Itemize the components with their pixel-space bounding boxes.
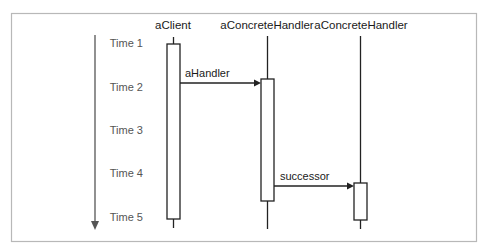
diagram-frame <box>12 14 477 242</box>
time-label-3: Time 3 <box>110 124 143 136</box>
time-label-5: Time 5 <box>110 211 143 223</box>
activation-bar <box>354 183 367 220</box>
message-label: aHandler <box>185 67 230 79</box>
message-label: successor <box>280 170 330 182</box>
activation-bar <box>167 44 180 219</box>
time-label-1: Time 1 <box>110 37 143 49</box>
participant-handler-2-label: aConcreteHandler <box>314 19 408 31</box>
time-label-2: Time 2 <box>110 81 143 93</box>
sequence-diagram: Time 1 Time 2 Time 3 Time 4 Time 5 aClie… <box>0 0 487 251</box>
activation-bar <box>261 79 274 201</box>
lifeline-aclient <box>167 37 180 228</box>
time-label-4: Time 4 <box>110 167 143 179</box>
participant-aclient-label: aClient <box>155 19 192 31</box>
participant-handler-1-label: aConcreteHandler <box>220 19 314 31</box>
